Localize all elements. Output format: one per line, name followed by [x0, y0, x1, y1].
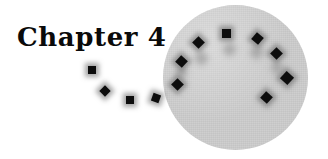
trail-square-marker	[99, 85, 110, 96]
arc-square-marker	[222, 29, 231, 38]
trail-square-marker	[151, 93, 161, 103]
trail-square-marker	[126, 96, 134, 104]
chapter-heading-graphic: Chapter 4	[0, 0, 328, 159]
trail-square-marker	[88, 66, 96, 74]
chapter-title: Chapter 4	[17, 24, 166, 50]
